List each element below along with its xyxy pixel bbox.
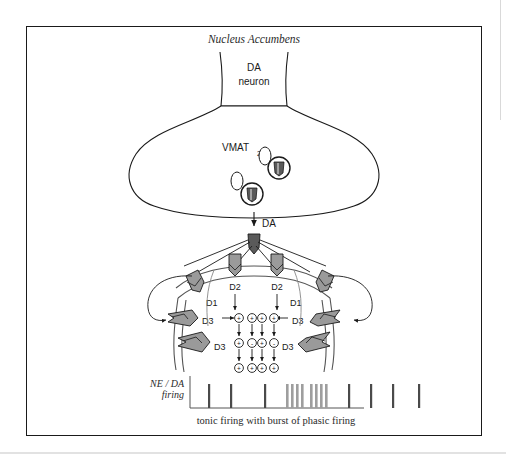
spike-bar <box>296 384 299 408</box>
right-margin-rule <box>500 0 501 120</box>
vmat-label: VMAT <box>222 142 249 153</box>
spike-bar <box>315 384 318 408</box>
signal-node-r1c4: + <box>272 315 276 322</box>
spike-bar <box>208 384 210 408</box>
spike-bar <box>320 384 323 408</box>
signal-node-r3c4: + <box>272 365 276 372</box>
spike-bar <box>301 384 304 408</box>
signal-row-2: + - + - <box>235 339 279 348</box>
receptor-label-d3-right-lower: D3 <box>282 342 294 352</box>
da-release-label: DA <box>262 218 276 229</box>
bottom-margin-rule <box>0 452 506 454</box>
spike-bar <box>392 384 394 408</box>
signal-node-r1c2: + <box>250 315 254 322</box>
autoreceptor-d3-right-upper[interactable]: D3 <box>292 310 340 326</box>
spike-train <box>208 384 420 408</box>
signal-row-3: + + + + <box>235 364 279 373</box>
signal-node-r1c1: + <box>237 315 241 322</box>
da-release: DA <box>184 212 326 272</box>
figure-title: Nucleus Accumbens <box>207 33 301 45</box>
signal-row-1: + + + + <box>235 314 279 323</box>
firing-caption: tonic firing with burst of phasic firing <box>197 415 356 426</box>
autoreceptor-d3-right-lower[interactable]: D3 <box>282 332 330 352</box>
spike-bar <box>418 384 420 408</box>
spike-bar <box>310 384 313 408</box>
signal-node-r2c1: + <box>237 340 241 347</box>
firing-axis-label-line1: NE / DA <box>149 378 185 389</box>
receptor-label-d2-right: D2 <box>271 282 283 292</box>
firing-trace-panel: NE / DA firing tonic firing with burst o… <box>149 376 420 426</box>
nucleus-accumbens-diagram: Nucleus Accumbens DA neuron VMAT 2 <box>26 26 482 436</box>
signal-node-r2c3: + <box>260 340 264 347</box>
neuron-label-neuron: neuron <box>238 76 269 87</box>
signal-node-r2c2: - <box>251 340 253 347</box>
spike-bar <box>286 384 289 408</box>
receptor-label-d3-right-upper: D3 <box>292 316 304 326</box>
spike-bar <box>370 384 372 408</box>
spike-bar <box>325 384 328 408</box>
firing-axis-label-line2: firing <box>162 389 184 400</box>
receptor-label-d2-left: D2 <box>229 282 241 292</box>
receptor-label-d3-left-lower: D3 <box>214 342 226 352</box>
receptor-label-d1-right: D1 <box>290 298 302 308</box>
figure-root: Nucleus Accumbens DA neuron VMAT 2 <box>0 0 506 461</box>
signal-node-r1c3: + <box>260 315 264 322</box>
spike-bar <box>348 384 350 408</box>
spike-bar <box>291 384 294 408</box>
signal-node-r3c1: + <box>237 365 241 372</box>
spike-bar <box>230 384 232 408</box>
receptor-d2-right[interactable]: D2 <box>271 254 283 292</box>
signaling-cascade: + + + + + - + - <box>222 294 288 372</box>
spike-bar <box>264 384 266 408</box>
neuron-label-da: DA <box>247 62 261 73</box>
signal-node-r3c2: + <box>250 365 254 372</box>
signal-node-r3c3: + <box>260 365 264 372</box>
autoreceptor-d3-left-lower[interactable]: D3 <box>178 332 226 352</box>
signal-node-r2c4: - <box>273 340 275 347</box>
receptor-d2-left[interactable]: D2 <box>229 254 241 292</box>
